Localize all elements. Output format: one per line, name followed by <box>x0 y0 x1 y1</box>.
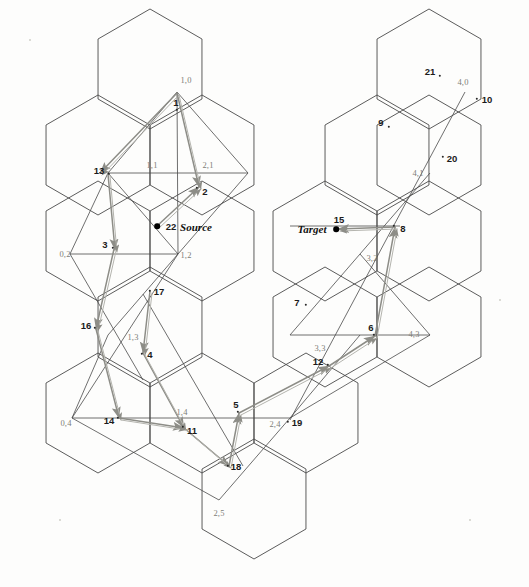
grid-coordinate-label: 3,2 <box>366 254 377 263</box>
path-6-8-echo <box>377 229 397 338</box>
route-arrow-layer <box>96 93 397 468</box>
chord-5 <box>178 173 248 254</box>
grid-coordinate-label: 1,0 <box>180 76 191 85</box>
grid-coordinate-label: 0,2 <box>59 250 70 259</box>
hex-3-2 <box>273 181 377 301</box>
chord-21 <box>290 254 360 335</box>
path-14-11 <box>119 418 184 428</box>
node-label-9: 9 <box>378 118 383 128</box>
grid-coordinate-label: 1,4 <box>176 408 187 417</box>
chord-11 <box>72 254 178 418</box>
hex-0-4 <box>46 353 150 473</box>
grid-coordinate-label: 4,3 <box>408 330 419 339</box>
path-13-3 <box>108 174 115 250</box>
path-5-12 <box>239 366 329 413</box>
node-label-1: 1 <box>173 98 178 108</box>
node-label-7: 7 <box>294 298 299 308</box>
grid-coordinate-label: 2,5 <box>213 509 224 518</box>
hex-2-4b <box>254 353 358 473</box>
node-label-5: 5 <box>233 400 238 410</box>
hex-0-1 <box>46 95 150 215</box>
grid-coordinate-label: 0,4 <box>60 419 71 428</box>
grid-coordinate-label: 4,0 <box>457 78 468 87</box>
node-label-8: 8 <box>400 224 405 234</box>
node-label-3: 3 <box>102 240 107 250</box>
paper-speck <box>499 299 501 301</box>
hex-1-2 <box>150 181 254 301</box>
path-8-15 <box>338 227 395 229</box>
source-marker-dot[interactable] <box>154 223 160 229</box>
chord-layer <box>70 92 465 500</box>
diagram-canvas: 1,01,12,10,21,21,31,42,40,42,54,04,13,23… <box>0 0 529 587</box>
hex-3-3 <box>273 267 377 387</box>
chord-6 <box>177 92 178 254</box>
path-14-11-echo <box>121 420 186 430</box>
node-label-16: 16 <box>81 321 92 331</box>
path-16-14-echo <box>98 331 121 420</box>
node-label-17: 17 <box>154 287 165 297</box>
paper-speck <box>59 519 61 521</box>
target-marker-dot[interactable] <box>333 226 339 232</box>
path-1-13-echo <box>102 95 179 175</box>
target-node-number: 15 <box>334 215 345 225</box>
chord-18 <box>290 335 430 418</box>
hex-0-2 <box>46 181 150 301</box>
chord-4 <box>108 173 178 254</box>
path-6-8 <box>375 227 395 336</box>
grid-coordinate-label: 1,1 <box>146 161 157 170</box>
grid-coordinate-label: 4,1 <box>412 169 423 178</box>
hex-4-3 <box>377 267 481 387</box>
node-label-10: 10 <box>482 95 493 105</box>
paper-speck <box>29 39 31 41</box>
grid-coordinate-label: 3,3 <box>314 344 325 353</box>
node-label-21: 21 <box>425 67 436 77</box>
grid-coordinate-label: 2,1 <box>202 161 213 170</box>
node-label-14: 14 <box>104 416 115 426</box>
node-label-2: 2 <box>202 187 207 197</box>
node-label-19: 19 <box>292 418 303 428</box>
source-node-number: 22 <box>166 222 177 232</box>
paper-speck <box>469 519 471 521</box>
chord-10 <box>70 254 143 380</box>
path-12-6 <box>329 336 375 366</box>
node-label-13: 13 <box>94 166 105 176</box>
hex-1-0 <box>98 9 202 129</box>
path-3-16-echo <box>98 251 116 331</box>
node-label-12: 12 <box>313 357 324 367</box>
source-label: Source <box>180 222 212 233</box>
node-label-4: 4 <box>147 350 152 360</box>
hexagon-layer <box>46 9 481 559</box>
path-4-11 <box>143 353 184 428</box>
path-18-5 <box>229 413 239 466</box>
node-label-20: 20 <box>447 154 458 164</box>
target-label: Target <box>298 224 327 235</box>
grid-coordinate-label: 1,2 <box>180 251 191 260</box>
path-1-2-echo <box>179 95 201 189</box>
node-label-6: 6 <box>368 323 373 333</box>
grid-coordinate-label: 2,4 <box>269 420 280 429</box>
node-label-18: 18 <box>231 462 242 472</box>
grid-coordinate-label: 1,3 <box>127 333 138 342</box>
path-5-12-echo <box>241 368 331 415</box>
path-1-13 <box>100 93 177 173</box>
path-16-14 <box>96 329 119 418</box>
hex-grid-svg <box>0 0 529 587</box>
node-label-11: 11 <box>187 426 197 436</box>
